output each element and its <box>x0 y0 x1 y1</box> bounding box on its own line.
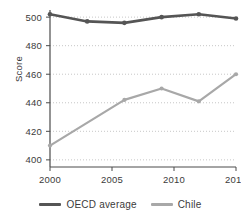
y-tick-labels: 400420440460480500 <box>26 12 42 166</box>
y-tick-label: 420 <box>26 126 42 137</box>
data-point <box>234 16 239 21</box>
y-tick-label: 440 <box>26 97 42 108</box>
legend-label: OECD average <box>66 199 136 210</box>
legend-item-chile[interactable]: Chile <box>151 199 202 210</box>
data-point <box>122 98 126 102</box>
plot-area: 400420440460480500 2000200520102015 <box>0 0 241 212</box>
data-point <box>122 21 127 26</box>
data-point <box>234 72 238 76</box>
y-axis-title: Score <box>8 34 26 104</box>
legend-swatch-icon <box>39 203 61 206</box>
gridlines <box>50 17 236 160</box>
legend-swatch-icon <box>151 203 173 206</box>
line-chart: 400420440460480500 2000200520102015 Scor… <box>0 0 241 212</box>
data-point <box>159 15 164 20</box>
data-point <box>197 12 202 17</box>
data-point <box>48 143 52 147</box>
y-tick-label: 460 <box>26 69 42 80</box>
series-layer <box>48 12 239 148</box>
x-tick-label: 2000 <box>39 174 61 185</box>
x-tick-label: 2015 <box>225 174 241 185</box>
y-axis-title-label: Score <box>13 56 24 82</box>
data-point <box>197 99 201 103</box>
series-line-oecd-average <box>50 14 236 23</box>
chart-legend: OECD average Chile <box>0 199 241 210</box>
y-tick-label: 400 <box>26 154 42 165</box>
legend-label: Chile <box>178 199 202 210</box>
y-tick-label: 480 <box>26 40 42 51</box>
data-point <box>48 12 53 17</box>
series-line-chile <box>50 74 236 145</box>
x-tick-marks <box>50 167 236 171</box>
y-tick-label: 500 <box>26 12 42 23</box>
legend-item-oecd-average[interactable]: OECD average <box>39 199 136 210</box>
x-tick-label: 2010 <box>163 174 185 185</box>
data-point <box>85 19 90 24</box>
x-tick-label: 2005 <box>101 174 123 185</box>
data-point <box>160 86 164 90</box>
x-tick-labels: 2000200520102015 <box>39 174 241 185</box>
